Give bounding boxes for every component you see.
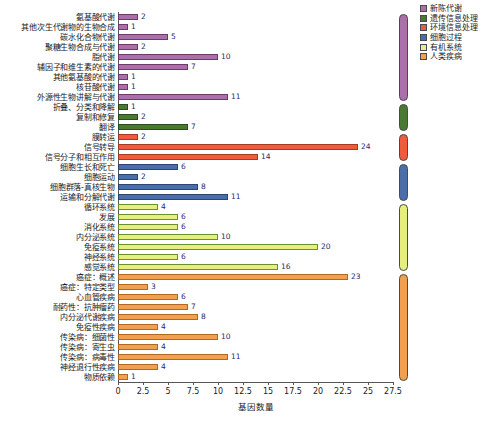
bar-row: 传染病：寄生虫4 — [118, 342, 393, 351]
bar — [118, 54, 218, 60]
bar — [118, 364, 158, 370]
bar-value-label: 1 — [131, 73, 136, 81]
bar-value-label: 2 — [141, 113, 146, 121]
category-label: 循环系统 — [84, 202, 115, 211]
bar-value-label: 3 — [151, 283, 156, 291]
category-label: 膜转运 — [92, 132, 115, 141]
x-axis-label: 基因数量 — [118, 400, 393, 412]
bar-value-label: 10 — [221, 53, 231, 61]
bar — [118, 314, 198, 320]
legend-item[interactable]: 人类疾病 — [420, 52, 478, 62]
x-tick-label: 22.5 — [334, 387, 352, 396]
bar-row: 物质依赖1 — [118, 372, 393, 381]
x-tick-label: 5 — [165, 387, 170, 396]
bar — [118, 324, 158, 330]
category-label: 折叠、分类和降解 — [53, 102, 115, 111]
x-tick — [193, 382, 194, 385]
bar-row: 折叠、分类和降解1 — [118, 102, 393, 111]
bar — [118, 244, 318, 250]
x-tick-label: 27.5 — [384, 387, 402, 396]
bar-row: 细胞生长和死亡6 — [118, 162, 393, 171]
x-tick — [293, 382, 294, 385]
x-tick — [393, 382, 394, 385]
bar — [118, 284, 148, 290]
category-label: 运输和分解代谢 — [60, 192, 115, 201]
legend-item[interactable]: 有机系统 — [420, 42, 478, 52]
category-label: 信号分子和相互作用 — [45, 152, 115, 161]
x-tick-label: 20 — [313, 387, 323, 396]
category-label: 内分泌系统 — [76, 232, 115, 241]
category-label: 信号转导 — [84, 142, 115, 151]
category-label: 内分泌代谢疾病 — [60, 312, 115, 321]
category-label: 细胞运动 — [84, 172, 115, 181]
x-tick-label: 2.5 — [137, 387, 150, 396]
bar — [118, 374, 128, 380]
x-tick — [268, 382, 269, 385]
category-capsule-genetic — [399, 104, 408, 131]
bar-value-label: 4 — [161, 363, 166, 371]
legend-swatch-icon — [420, 53, 427, 60]
bar — [118, 294, 178, 300]
legend-swatch-icon — [420, 44, 427, 51]
bar — [118, 94, 228, 100]
bar-row: 内分泌系统10 — [118, 232, 393, 241]
x-tick-label: 7.5 — [187, 387, 200, 396]
category-label: 癌症：概述 — [76, 272, 115, 281]
bar-row: 感觉系统16 — [118, 262, 393, 271]
bar-value-label: 10 — [221, 233, 231, 241]
bar-value-label: 1 — [131, 23, 136, 31]
x-tick-label: 0 — [115, 387, 120, 396]
category-capsule-disease — [399, 274, 408, 381]
bar — [118, 14, 138, 20]
bar — [118, 204, 158, 210]
bar-value-label: 11 — [231, 193, 241, 201]
bar-row: 消化系统6 — [118, 222, 393, 231]
category-capsule-cellular — [399, 164, 408, 201]
bar — [118, 154, 258, 160]
bar — [118, 184, 198, 190]
x-tick-label: 10 — [213, 387, 223, 396]
legend-swatch-icon — [420, 15, 427, 22]
legend-item[interactable]: 新陈代谢 — [420, 4, 478, 14]
bar — [118, 164, 178, 170]
category-capsule-organismal — [399, 204, 408, 271]
bar — [118, 34, 168, 40]
x-tick — [168, 382, 169, 385]
bar-value-label: 11 — [231, 93, 241, 101]
bar-row: 发展6 — [118, 212, 393, 221]
legend-swatch-icon — [420, 24, 427, 31]
x-tick-label: 17.5 — [284, 387, 302, 396]
category-label: 核苷酸代谢 — [76, 82, 115, 91]
bar-value-label: 1 — [131, 373, 136, 381]
bar-value-label: 2 — [141, 43, 146, 51]
bar-value-label: 7 — [191, 303, 196, 311]
bar-value-label: 8 — [201, 313, 206, 321]
legend-swatch-icon — [420, 34, 427, 41]
x-axis-line — [118, 382, 393, 383]
legend-item[interactable]: 遗传信息处理 — [420, 14, 478, 24]
bar — [118, 74, 128, 80]
category-label: 消化系统 — [84, 222, 115, 231]
bar-row: 细胞运动2 — [118, 172, 393, 181]
bar — [118, 64, 188, 70]
bar — [118, 104, 128, 110]
bar-row: 翻译7 — [118, 122, 393, 131]
category-label: 发展 — [99, 212, 115, 221]
bar — [118, 264, 278, 270]
bar-row: 信号分子和相互作用14 — [118, 152, 393, 161]
legend-item[interactable]: 环境信息处理 — [420, 23, 478, 33]
bar-value-label: 11 — [231, 353, 241, 361]
bar-value-label: 4 — [161, 343, 166, 351]
category-label: 耐药性：抗肿瘤药 — [53, 302, 115, 311]
bar — [118, 24, 128, 30]
category-label: 神经退行性疾病 — [60, 362, 115, 371]
x-tick — [118, 382, 119, 385]
bar-row: 信号转导24 — [118, 142, 393, 151]
category-label: 免疫系统 — [84, 242, 115, 251]
bar-value-label: 2 — [141, 133, 146, 141]
legend-item[interactable]: 细胞过程 — [420, 33, 478, 43]
bar-value-label: 6 — [181, 223, 186, 231]
legend-label: 细胞过程 — [430, 33, 462, 42]
bar-row: 内分泌代谢疾病8 — [118, 312, 393, 321]
bar — [118, 224, 178, 230]
